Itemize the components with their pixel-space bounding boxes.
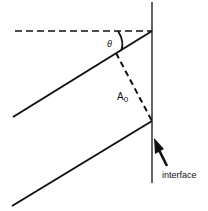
theta-label: θ <box>107 39 112 49</box>
amplitude-label: A0 <box>117 91 129 104</box>
wavefront-interface-diagram: θ A0 interface <box>0 0 208 211</box>
amplitude-dashed-line <box>116 53 152 121</box>
interface-label: interface <box>162 170 197 180</box>
upper-ray-line <box>13 31 152 117</box>
theta-angle-arc <box>118 31 122 51</box>
diagram-canvas: θ A0 interface <box>0 0 208 211</box>
lower-ray-line <box>12 121 152 206</box>
interface-arrow-icon <box>154 138 167 166</box>
